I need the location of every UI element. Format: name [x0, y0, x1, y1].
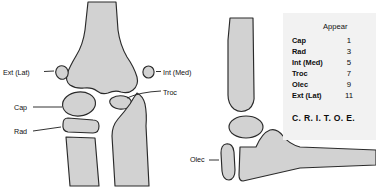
legend-row-name: Olec	[292, 80, 336, 89]
legend-row-name: Ext (Lat)	[292, 91, 336, 100]
medial-epicondyle-center	[143, 66, 154, 78]
legend-row-name: Cap	[292, 36, 336, 45]
legend-row: Olec 9	[292, 80, 376, 91]
capitellum-center	[61, 90, 96, 117]
humerus-bone-lateral	[228, 18, 254, 112]
legend-row-age: 3	[336, 47, 362, 56]
leader-line-ext-lat	[44, 71, 54, 72]
label-olec: Olec	[190, 156, 205, 163]
legend-row-age: 11	[336, 91, 362, 100]
legend-row: Ext (Lat) 11	[292, 91, 376, 102]
label-int-med: Int (Med)	[163, 69, 191, 76]
critoe-mnemonic: C. R. I. T. O. E.	[292, 113, 355, 123]
ossification-legend-panel: Appear Cap 1 Rad 3 Int (Med) 5 Troc 7 Ol…	[283, 13, 376, 140]
legend-row-name: Rad	[292, 47, 336, 56]
legend-row-age: 9	[336, 80, 362, 89]
legend-row-name: Troc	[292, 69, 336, 78]
radius-shaft-ap	[66, 137, 99, 186]
legend-header-appear: Appear	[323, 22, 348, 31]
legend-row-age: 7	[336, 69, 362, 78]
legend-row: Int (Med) 5	[292, 58, 376, 69]
elbow-ossification-figure: Ext (Lat) Cap Rad Int (Med) Troc Olec Ap…	[0, 0, 376, 187]
leader-line-troc	[127, 91, 161, 98]
legend-row-name: Int (Med)	[292, 58, 336, 67]
capitellum-center-lateral	[229, 116, 263, 138]
legend-row: Rad 3	[292, 47, 376, 58]
radius-bone-ap	[63, 118, 99, 133]
legend-row-age: 1	[336, 36, 362, 45]
label-ext-lat: Ext (Lat)	[3, 69, 30, 76]
legend-row-age: 5	[336, 58, 362, 67]
label-rad: Rad	[14, 128, 27, 135]
legend-row-list: Cap 1 Rad 3 Int (Med) 5 Troc 7 Olec 9 Ex…	[292, 36, 376, 102]
label-troc: Troc	[163, 89, 177, 96]
leader-line-rad	[33, 127, 61, 131]
legend-row: Cap 1	[292, 36, 376, 47]
legend-row: Troc 7	[292, 69, 376, 80]
label-cap: Cap	[14, 104, 27, 111]
humerus-bone-ap	[66, 2, 137, 94]
olecranon-center-lateral	[221, 144, 235, 180]
